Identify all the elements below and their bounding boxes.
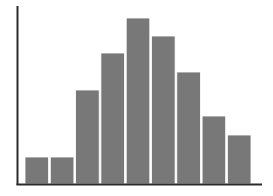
bar [177,72,201,184]
bar [152,36,176,184]
bar [25,157,49,184]
bar [50,157,74,184]
bar [101,53,125,184]
bar-chart-figure [0,0,273,196]
bar [227,135,251,184]
chart-canvas [0,0,273,196]
bar [76,90,100,184]
bar [202,116,226,184]
bar [126,18,150,184]
